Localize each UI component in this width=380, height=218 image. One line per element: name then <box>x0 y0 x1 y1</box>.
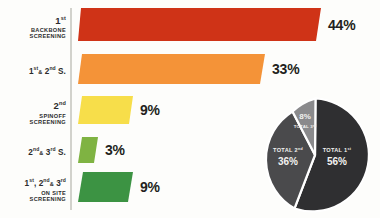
bar-value: 9% <box>140 179 160 195</box>
bar-label: 1st, 2nd& 3rd ON SITE SCREENING <box>0 172 70 201</box>
bar-wrap: 9% <box>78 96 160 124</box>
bar-row: 1st& 2nd S. 33% <box>0 54 380 84</box>
ordinal-suffix: st <box>61 15 66 21</box>
ordinal-suffix: rd <box>61 178 66 184</box>
bar-value: 9% <box>140 102 160 118</box>
pie-chart: TOTAL 1st 56% TOTAL 2nd 36% 8% TOTAL 3rd <box>254 96 376 214</box>
ordinal-suffix: nd <box>49 66 55 72</box>
comma: , <box>34 179 36 188</box>
infographic-root: 1st BACKBONE SCREENING 44% 1st& 2nd S. 3… <box>0 0 380 218</box>
bar-label-tail: S. <box>58 148 66 157</box>
bar-label-inline: 1st, 2nd& 3rd <box>25 179 66 188</box>
bar-value: 33% <box>272 61 299 77</box>
bar-value: 3% <box>105 142 125 158</box>
bar-wrap: 9% <box>78 172 160 202</box>
ampersand: & <box>50 181 54 187</box>
bar-shape-4[interactable] <box>78 137 98 163</box>
pie-label-total-1-value: 56% <box>327 156 347 167</box>
bar-label-ordinal: 2nd <box>53 100 66 111</box>
bar-shape-2[interactable] <box>78 54 265 84</box>
pie-label-total-2-value: 36% <box>278 156 298 167</box>
bar-shape-1[interactable] <box>78 8 321 41</box>
bar-shape-3[interactable] <box>78 96 133 124</box>
bar-label: 1st& 2nd S. <box>0 60 70 77</box>
bar-row: 1st BACKBONE SCREENING 44% <box>0 8 380 41</box>
bar-wrap: 44% <box>78 8 355 41</box>
bar-shape-5[interactable] <box>78 172 133 202</box>
bar-label-line3: SCREENING <box>0 33 66 39</box>
ampersand: & <box>38 69 42 75</box>
bar-label-inline: 2nd& 3rd S. <box>28 148 66 157</box>
bar-wrap: 3% <box>78 137 125 163</box>
bar-label-inline: 1st& 2nd S. <box>29 67 66 76</box>
bar-label-line3: SCREENING <box>0 196 66 202</box>
ampersand: & <box>39 150 43 156</box>
pie-label-total-1-name: TOTAL 1st <box>323 147 352 153</box>
pie-chart-svg[interactable]: TOTAL 1st 56% TOTAL 2nd 36% 8% TOTAL 3rd <box>254 96 376 214</box>
pie-label-total-3-value: 8% <box>299 112 311 121</box>
bar-label-ordinal: 1st <box>55 15 66 26</box>
bar-label: 2nd SPINOFF SCREENING <box>0 95 70 124</box>
ordinal-suffix: nd <box>59 100 66 106</box>
bar-label: 2nd& 3rd S. <box>0 141 70 158</box>
bar-label: 1st BACKBONE SCREENING <box>0 10 70 39</box>
bar-wrap: 33% <box>78 54 299 84</box>
bar-value: 44% <box>328 17 355 33</box>
ordinal-suffix: rd <box>50 147 55 153</box>
bar-label-line3: SCREENING <box>0 119 66 125</box>
bar-label-tail: S. <box>58 67 66 76</box>
